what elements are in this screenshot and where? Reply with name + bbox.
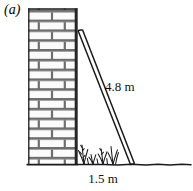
ladder-icon (78, 30, 135, 165)
base-distance-label: 1.5 m (73, 172, 133, 185)
ladder-against-wall-figure: (a) 4.8 m 1.5 m (0, 0, 193, 191)
ladder-rail-left (78, 31, 131, 165)
grass-tuft-icon (79, 145, 119, 164)
brick-wall-icon (27, 9, 79, 166)
ladder-length-label: 4.8 m (105, 80, 135, 93)
ladder-top-cap (78, 30, 83, 31)
ladder-rail-right (83, 30, 135, 164)
ladder-foot-cap (131, 164, 135, 165)
wall-brick-fill (29, 9, 77, 166)
figure-canvas (0, 0, 193, 191)
figure-part-label: (a) (4, 3, 20, 17)
